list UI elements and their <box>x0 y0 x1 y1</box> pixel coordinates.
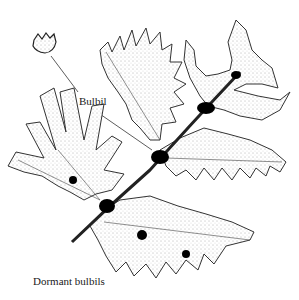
bulbil-dot <box>231 71 241 79</box>
fern-illustration <box>0 0 299 300</box>
bulbil-dot <box>99 199 115 213</box>
detached-bulbil <box>33 33 56 53</box>
bulbil-dot <box>197 102 215 114</box>
dormant-bulbils-label: Dormant bulbils <box>33 275 105 287</box>
bulbil-dot <box>69 176 77 184</box>
lower-pinna <box>90 196 254 278</box>
bulbil-dot <box>182 250 190 258</box>
bulbil-label: Bulbil <box>79 95 107 107</box>
bulbil-leader-line <box>51 56 78 92</box>
bulbil-dot <box>151 150 169 164</box>
left-pinna <box>8 88 124 200</box>
bulbil-dot <box>137 230 147 240</box>
